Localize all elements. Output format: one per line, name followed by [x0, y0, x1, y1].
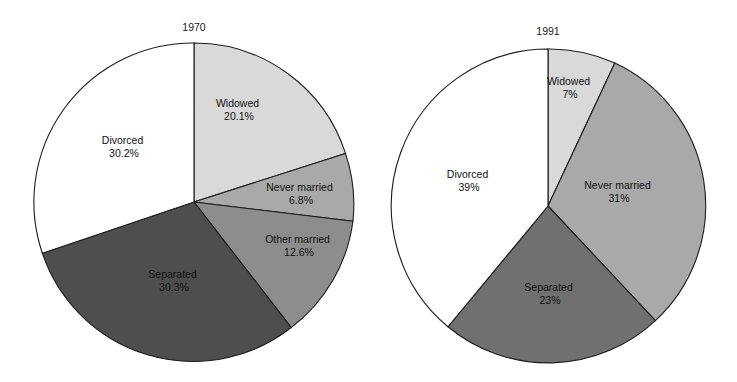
pie-1991-label-divorced-pct: 39% [458, 181, 479, 193]
pie-1970-label-never-married-pct: 6.8% [289, 194, 313, 206]
pie-1970-label-divorced-pct: 30.2% [109, 147, 139, 159]
pie-1991-label-widowed-pct: 7% [562, 88, 577, 100]
pie-chart-1991-svg: 1991 Widowed 7% Never married 31% Separa… [370, 0, 737, 382]
pie-chart-1970-svg: 1970 Widowed 20.1% Never married 6.8% [0, 0, 370, 382]
pie-1970-label-other-married-pct: 12.6% [284, 246, 314, 258]
pie-1970-label-separated-name: Separated [148, 268, 197, 280]
pie-1991-label-divorced-name: Divorced [447, 168, 489, 180]
pie-1991-label-never-married-pct: 31% [608, 192, 629, 204]
pie-1991-label-separated-pct: 23% [539, 294, 560, 306]
pie-1970-label-divorced-name: Divorced [102, 134, 144, 146]
pie-1970-label-separated-pct: 30.3% [159, 281, 189, 293]
pie-1991-title: 1991 [536, 25, 560, 37]
pie-1991-label-never-married-name: Never married [584, 179, 651, 191]
pie-chart-1970-panel: 1970 Widowed 20.1% Never married 6.8% [0, 0, 370, 382]
pie-1970-title: 1970 [182, 21, 206, 33]
pie-chart-1991-panel: 1991 Widowed 7% Never married 31% Separa… [370, 0, 737, 382]
pie-1970-label-never-married-name: Never married [266, 181, 333, 193]
pie-1991-label-separated-name: Separated [524, 281, 573, 293]
pie-1970-label-widowed-name: Widowed [216, 97, 259, 109]
pie-1970-label-other-married-name: Other married [265, 233, 330, 245]
pie-chart-figure: 1970 Widowed 20.1% Never married 6.8% [0, 0, 737, 382]
pie-1970-label-widowed-pct: 20.1% [224, 110, 254, 122]
pie-1991-label-widowed-name: Widowed [547, 75, 590, 87]
